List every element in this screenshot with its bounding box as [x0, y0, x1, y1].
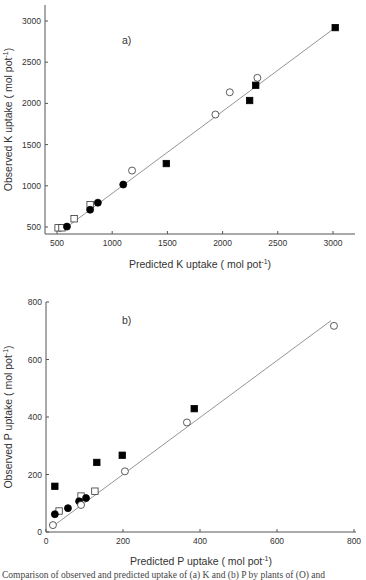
y-axis-label-close: ) — [2, 345, 14, 349]
x-tick-label: 600 — [270, 536, 284, 546]
data-point-filled-circle — [64, 505, 71, 512]
data-point-filled-square — [119, 452, 125, 458]
y-tick-label: 400 — [28, 412, 42, 422]
figure-caption: Comparison of observed and predicted upt… — [2, 570, 364, 580]
x-tick-label: 200 — [116, 536, 130, 546]
y-tick-label: 2000 — [22, 98, 41, 108]
x-axis-label: Predicted K uptake ( mol pot-1) — [129, 258, 271, 270]
y-tick-label: 600 — [28, 355, 42, 365]
data-point-filled-circle — [51, 511, 58, 518]
data-point-filled-square — [253, 82, 259, 88]
x-tick-label: 3000 — [324, 238, 343, 248]
data-point-open-square — [71, 216, 77, 222]
y-axis-label-text: Observed K uptake ( mol pot — [2, 57, 14, 191]
x-tick-label: 0 — [44, 536, 49, 546]
y-tick-label: 0 — [37, 527, 42, 537]
x-axis-label-close: ) — [269, 555, 273, 567]
data-point-filled-circle — [87, 206, 94, 213]
y-axis-label-close: ) — [2, 48, 14, 52]
y-tick-label: 200 — [28, 470, 42, 480]
y-axis-label: Observed K uptake ( mol pot-1) — [2, 48, 14, 191]
data-point-open-circle — [121, 468, 128, 475]
x-axis-label-close: ) — [268, 258, 272, 270]
data-point-open-circle — [254, 74, 261, 81]
y-tick-label: 1500 — [22, 140, 41, 150]
y-tick-label: 500 — [27, 222, 41, 232]
x-tick-label: 400 — [193, 536, 207, 546]
data-point-filled-square — [332, 24, 338, 30]
x-axis-label: Predicted P uptake ( mol pot-1) — [130, 555, 272, 567]
data-point-filled-circle — [63, 223, 70, 230]
data-point-filled-square — [246, 97, 252, 103]
data-point-open-circle — [212, 111, 219, 118]
data-point-open-circle — [226, 89, 233, 96]
y-tick-label: 1000 — [22, 181, 41, 191]
y-tick-label: 3000 — [22, 16, 41, 26]
panel-label: a) — [122, 34, 131, 46]
y-tick-label: 2500 — [22, 57, 41, 67]
data-point-filled-square — [52, 483, 58, 489]
data-point-filled-square — [163, 160, 169, 166]
data-point-open-circle — [78, 501, 85, 508]
data-point-open-circle — [49, 522, 56, 529]
y-axis-label: Observed P uptake ( mol pot-1) — [2, 345, 14, 488]
data-point-filled-square — [94, 459, 100, 465]
data-point-filled-circle — [120, 181, 127, 188]
panel-b: 02004006008000200400600800b)Predicted P … — [2, 297, 361, 567]
x-tick-label: 2000 — [213, 238, 232, 248]
panel-label: b) — [122, 314, 131, 326]
x-tick-label: 1500 — [158, 238, 177, 248]
data-point-open-circle — [183, 419, 190, 426]
data-point-filled-square — [191, 405, 197, 411]
panel-a: 5001000150020002500300050010001500200025… — [2, 5, 355, 270]
one-to-one-line — [53, 321, 331, 527]
x-axis-label-text: Predicted K uptake ( mol pot — [129, 258, 262, 270]
x-tick-label: 1000 — [103, 238, 122, 248]
x-tick-label: 500 — [50, 238, 64, 248]
x-tick-label: 2500 — [268, 238, 287, 248]
data-point-filled-circle — [83, 495, 90, 502]
data-point-filled-circle — [94, 199, 101, 206]
data-point-open-circle — [129, 167, 136, 174]
x-axis-label-text: Predicted P uptake ( mol pot — [130, 555, 262, 567]
x-tick-label: 800 — [347, 536, 361, 546]
data-point-open-circle — [330, 322, 337, 329]
data-point-open-square — [92, 488, 98, 494]
y-axis-label-text: Observed P uptake ( mol pot — [2, 355, 14, 489]
y-tick-label: 800 — [28, 297, 42, 307]
one-to-one-line — [67, 28, 335, 227]
